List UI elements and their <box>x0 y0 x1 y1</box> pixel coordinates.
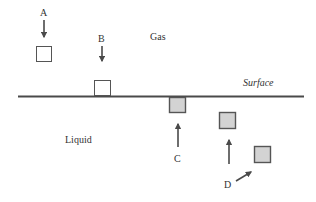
gas-liquid-diagram: Gas Liquid Surface A B C D <box>0 0 316 202</box>
marker-d-lower-box <box>255 147 271 163</box>
marker-b-label: B <box>98 33 105 44</box>
marker-a-box <box>37 47 52 62</box>
marker-b-box <box>95 81 111 96</box>
marker-c-box <box>170 98 186 113</box>
marker-d-diagonal-arrow-icon <box>236 172 251 181</box>
marker-d-upper-box <box>220 113 236 129</box>
marker-a-label: A <box>40 7 48 18</box>
liquid-label: Liquid <box>65 134 92 145</box>
surface-label: Surface <box>243 77 274 88</box>
marker-c-label: C <box>174 153 181 164</box>
marker-d-label: D <box>224 179 231 190</box>
gas-label: Gas <box>150 31 166 42</box>
